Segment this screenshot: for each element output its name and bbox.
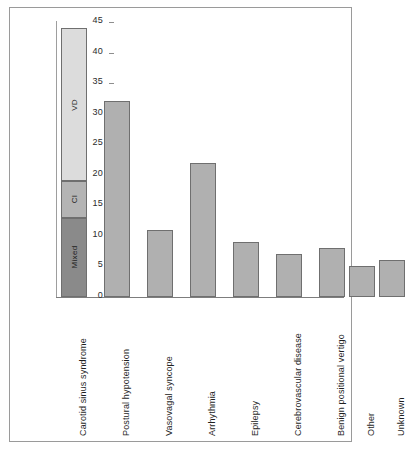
bar[interactable]: [349, 266, 375, 297]
y-axis-tick-label: 35: [93, 76, 103, 86]
y-axis-tick-label: 5: [98, 259, 103, 269]
bar-segment-label: VD: [70, 99, 79, 111]
bar[interactable]: [104, 101, 130, 297]
y-axis-tick-label: 30: [93, 107, 103, 117]
y-axis-tick-label: 40: [93, 46, 103, 56]
y-axis-tick-label: 15: [93, 198, 103, 208]
plot-area: 454035302520151050 MixedCIVD: [57, 22, 344, 297]
y-axis-tick-mark: [109, 22, 114, 23]
bar-segment[interactable]: VD: [61, 28, 87, 181]
y-axis-tick-mark: [109, 83, 114, 84]
bar-segment-label: Mixed: [70, 246, 79, 269]
y-axis-tick-label: 25: [93, 137, 103, 147]
bar[interactable]: [379, 260, 405, 297]
y-axis-tick-mark: [109, 53, 114, 54]
bar[interactable]: [233, 242, 259, 297]
bar-segment[interactable]: Mixed: [61, 218, 87, 297]
y-axis-tick-label: 45: [93, 15, 103, 25]
bar-segment[interactable]: CI: [61, 181, 87, 218]
y-axis-tick-label: 10: [93, 229, 103, 239]
bar-segment-label: CI: [70, 195, 79, 204]
bar[interactable]: [319, 248, 345, 297]
bar[interactable]: [190, 163, 216, 297]
y-axis-tick-label: 0: [98, 290, 103, 300]
stacked-bar[interactable]: MixedCIVD: [61, 28, 87, 297]
y-axis-tick-label: 20: [93, 168, 103, 178]
bar[interactable]: [276, 254, 302, 297]
bar[interactable]: [147, 230, 173, 297]
